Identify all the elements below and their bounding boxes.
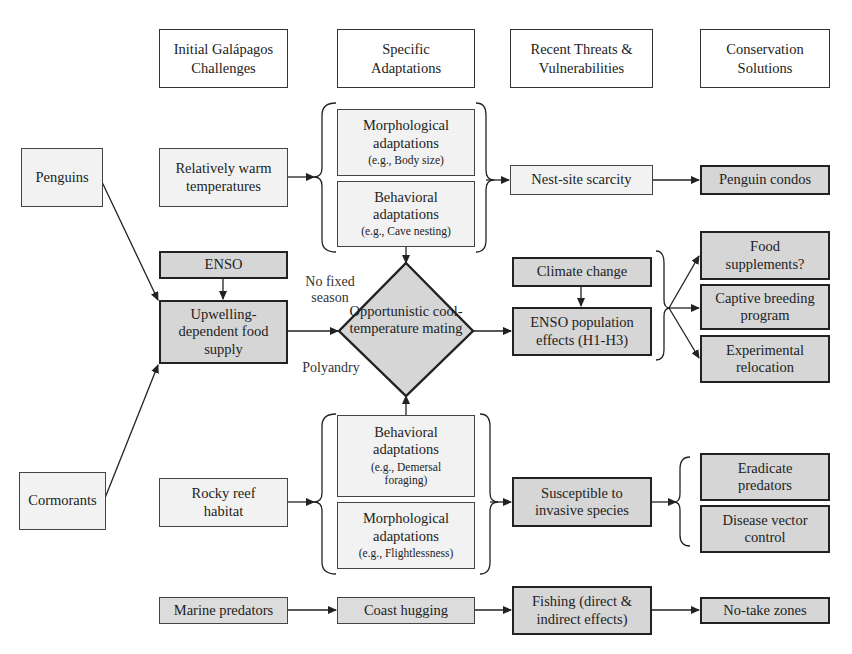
node-example: (e.g., Flightlessness) [359,547,454,561]
solution-experimental-relocation: Experimental relocation [700,335,830,383]
node-example: (e.g., Demersal foraging) [360,461,452,489]
species-cormorants: Cormorants [19,472,106,530]
adaptation-cormorant-morphological: Morphological adaptations (e.g., Flightl… [337,502,475,569]
node-label: Captive breeding program [710,290,820,325]
node-label: Morphological adaptations [354,510,458,545]
header-label: Specific Adaptations [352,40,460,78]
node-label: Experimental relocation [716,342,814,377]
adaptation-coast-hugging: Coast hugging [337,597,475,624]
node-label: Eradicate predators [728,460,802,495]
annotation-text: No fixed season [305,274,354,305]
node-label: Penguin condos [719,171,811,188]
species-penguins: Penguins [21,148,103,207]
node-label: Behavioral adaptations [360,189,452,224]
header-label: Conservation Solutions [715,40,815,78]
solution-captive-breeding: Captive breeding program [700,284,830,330]
node-label: ENSO population effects (H1-H3) [526,314,638,349]
polyandry-label: Polyandry [296,360,366,376]
node-label: ENSO [205,256,243,273]
challenge-rocky-reef: Rocky reef habitat [159,478,288,527]
threat-climate-change: Climate change [512,257,652,287]
node-label: Marine predators [174,602,273,619]
node-label: Cormorants [28,492,96,509]
node-label: Penguins [35,169,88,186]
threat-nest-site-scarcity: Nest-site scarcity [510,165,653,195]
threat-fishing: Fishing (direct & indirect effects) [512,586,652,635]
adaptation-penguin-morphological: Morphological adaptations (e.g., Body si… [337,109,475,176]
annotation-text: Polyandry [302,360,360,375]
solution-disease-vector-control: Disease vector control [700,505,830,553]
threat-invasive-species: Susceptible to invasive species [512,477,652,527]
node-label: Disease vector control [720,512,810,547]
conservation-flow-diagram: Initial Galápagos Challenges Specific Ad… [0,0,852,654]
adaptation-penguin-behavioral: Behavioral adaptations (e.g., Cave nesti… [337,181,475,247]
node-label: Upwelling-dependent food supply [171,306,276,358]
header-recent-threats: Recent Threats & Vulnerabilities [510,29,653,88]
node-label: Nest-site scarcity [531,171,631,188]
header-label: Recent Threats & Vulnerabilities [519,40,644,78]
header-initial-challenges: Initial Galápagos Challenges [159,29,288,88]
header-specific-adaptations: Specific Adaptations [337,29,475,88]
mating-diamond-label: Opportunistic cool-temperature mating [339,303,473,338]
node-example: (e.g., Body size) [368,154,444,168]
node-label: Susceptible to invasive species [528,485,636,520]
node-example: (e.g., Cave nesting) [361,225,451,239]
node-label: Opportunistic cool-temperature mating [339,303,473,338]
node-label: Relatively warm temperatures [170,160,277,195]
adaptation-cormorant-behavioral: Behavioral adaptations (e.g., Demersal f… [337,415,475,497]
solution-penguin-condos: Penguin condos [700,165,830,195]
challenge-upwelling-food-supply: Upwelling-dependent food supply [159,300,288,364]
solution-no-take-zones: No-take zones [700,597,830,624]
solution-food-supplements: Food supplements? [700,231,830,280]
challenge-marine-predators: Marine predators [159,597,288,624]
challenge-enso: ENSO [159,251,288,279]
threat-enso-population-effects: ENSO population effects (H1-H3) [512,307,652,356]
node-label: Fishing (direct & indirect effects) [526,593,638,628]
no-fixed-season-label: No fixed season [300,274,360,306]
node-label: No-take zones [723,602,806,619]
header-label: Initial Galápagos Challenges [166,40,281,78]
node-label: Behavioral adaptations [360,424,452,459]
node-label: Rocky reef habitat [184,485,263,520]
node-label: Coast hugging [364,602,448,619]
challenge-warm-temperatures: Relatively warm temperatures [159,148,288,207]
node-label: Morphological adaptations [356,117,456,152]
node-label: Climate change [537,263,628,280]
node-label: Food supplements? [722,238,808,273]
header-conservation-solutions: Conservation Solutions [700,29,830,88]
solution-eradicate-predators: Eradicate predators [700,453,830,501]
